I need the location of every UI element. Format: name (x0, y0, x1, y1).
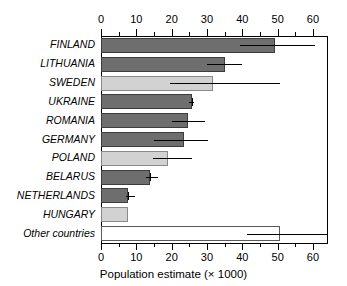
error-bar (154, 140, 208, 141)
minor-tick-top (260, 32, 261, 36)
minor-tick-bot (225, 243, 226, 247)
major-tick-bot (313, 243, 314, 250)
x-tick-label-top: 10 (116, 14, 156, 25)
error-bar (146, 177, 158, 178)
major-tick-top (313, 29, 314, 36)
category-label: BELARUS (46, 171, 95, 182)
error-bar (247, 234, 328, 235)
bar (101, 94, 192, 109)
x-axis-title: Population estimate (× 1000) (0, 268, 347, 280)
x-tick-label-top: 40 (222, 14, 262, 25)
x-axis-title-text: Population estimate (× 1000) (100, 268, 247, 280)
x-tick-label-bottom: 60 (293, 252, 333, 263)
category-label: POLAND (52, 152, 95, 163)
x-tick-label-bottom: 10 (116, 252, 156, 263)
error-bar-cap (192, 98, 193, 106)
error-bar (172, 121, 206, 122)
error-bar (153, 158, 192, 159)
major-tick-bot (278, 243, 279, 250)
x-tick-label-top: 50 (258, 14, 298, 25)
minor-tick-bot (260, 243, 261, 247)
category-label: SWEDEN (49, 77, 95, 88)
category-label: ROMANIA (46, 115, 95, 126)
category-label: Other countries (23, 228, 95, 239)
major-tick-top (172, 29, 173, 36)
major-tick-top (136, 29, 137, 36)
x-tick-label-bottom: 0 (81, 252, 121, 263)
bar-chart: 00101020203030404050506060 FINLANDLITHUA… (0, 0, 347, 286)
major-tick-bot (101, 243, 102, 250)
minor-tick-top (154, 32, 155, 36)
minor-tick-top (189, 32, 190, 36)
x-tick-label-bottom: 40 (222, 252, 262, 263)
category-label: NETHERLANDS (17, 190, 95, 201)
minor-tick-bot (154, 243, 155, 247)
bar (101, 188, 128, 203)
x-tick-label-top: 0 (81, 14, 121, 25)
minor-tick-top (225, 32, 226, 36)
error-bar (207, 64, 242, 65)
error-bar-cap (128, 192, 129, 200)
x-tick-label-bottom: 20 (152, 252, 192, 263)
major-tick-bot (136, 243, 137, 250)
x-tick-label-top: 60 (293, 14, 333, 25)
category-label: LITHUANIA (40, 58, 95, 69)
x-tick-label-top: 30 (187, 14, 227, 25)
category-label: HUNGARY (43, 209, 95, 220)
category-label: FINLAND (50, 39, 95, 50)
x-tick-label-top: 20 (152, 14, 192, 25)
bar (101, 170, 150, 185)
minor-tick-top (119, 32, 120, 36)
bottom-axis-line (101, 243, 328, 244)
major-tick-top (278, 29, 279, 36)
minor-tick-bot (119, 243, 120, 247)
major-tick-bot (242, 243, 243, 250)
error-bar (170, 83, 280, 84)
major-tick-top (101, 29, 102, 36)
category-label: UKRAINE (48, 96, 95, 107)
x-tick-label-bottom: 50 (258, 252, 298, 263)
bar (101, 207, 128, 222)
error-bar-cap (150, 173, 151, 181)
minor-tick-top (295, 32, 296, 36)
major-tick-bot (172, 243, 173, 250)
major-tick-top (242, 29, 243, 36)
error-bar (240, 45, 315, 46)
major-tick-bot (207, 243, 208, 250)
x-tick-label-bottom: 30 (187, 252, 227, 263)
major-tick-top (207, 29, 208, 36)
category-label: GERMANY (42, 134, 95, 145)
minor-tick-bot (189, 243, 190, 247)
minor-tick-bot (295, 243, 296, 247)
